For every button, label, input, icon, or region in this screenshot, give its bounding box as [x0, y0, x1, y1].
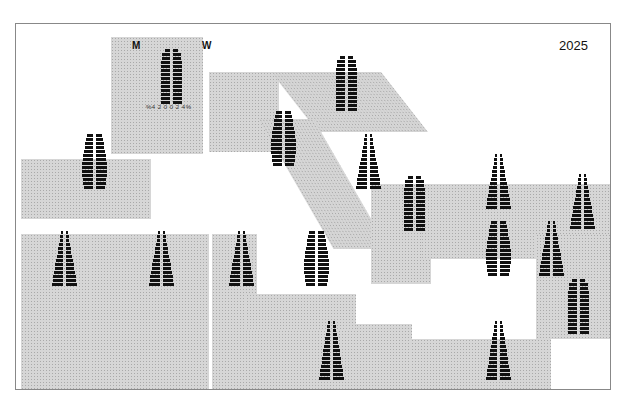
year-label: 2025 — [559, 38, 588, 53]
population-pyramid — [82, 134, 107, 190]
population-pyramid — [149, 231, 174, 287]
population-pyramid — [486, 221, 511, 277]
population-pyramid — [402, 176, 427, 232]
region-north-1 — [209, 72, 279, 152]
population-pyramid — [319, 321, 344, 381]
region-south-1 — [212, 324, 412, 389]
map-frame: 2025 M W %4 2 0 0 2 4% — [15, 23, 611, 390]
legend-men-label: M — [132, 40, 140, 51]
population-pyramid — [486, 321, 511, 381]
population-pyramid — [271, 111, 296, 167]
region-legend-box — [111, 37, 203, 154]
population-pyramid — [356, 134, 381, 190]
population-pyramid — [304, 231, 329, 287]
population-pyramid — [486, 154, 511, 210]
population-pyramid — [539, 221, 564, 277]
population-pyramid — [159, 49, 184, 105]
population-pyramid — [52, 231, 77, 287]
legend-women-label: W — [202, 40, 211, 51]
region-south-2 — [411, 339, 551, 389]
population-pyramid — [229, 231, 254, 287]
population-pyramid — [570, 174, 595, 230]
population-pyramid — [334, 56, 359, 112]
population-pyramid — [566, 279, 591, 335]
